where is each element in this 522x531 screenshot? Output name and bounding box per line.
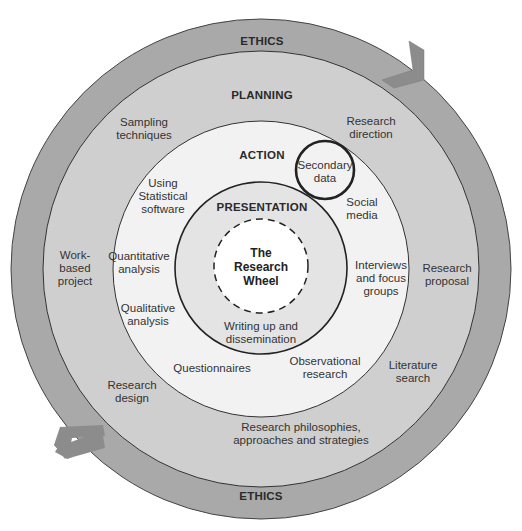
item-line: search <box>389 372 438 385</box>
planning-item-research-direction: Research direction <box>346 115 395 141</box>
ethics-heading-bottom: ETHICS <box>239 490 282 503</box>
item-line: Observational <box>290 355 361 368</box>
item-line: software <box>138 203 187 216</box>
item-line: approaches and strategies <box>233 434 369 447</box>
item-line: direction <box>346 128 395 141</box>
planning-item-research-philosophies: Research philosophies, approaches and st… <box>233 421 369 447</box>
action-item-quantitative-analysis: Quantitative analysis <box>108 250 169 276</box>
item-line: techniques <box>116 129 172 142</box>
planning-item-work-based-project: Work- based project <box>58 249 93 288</box>
item-line: based <box>58 262 93 275</box>
action-item-observational-research: Observational research <box>290 355 361 381</box>
planning-item-research-design: Research design <box>107 379 156 405</box>
item-line: Literature <box>389 359 438 372</box>
item-line: Using <box>138 177 187 190</box>
item-line: Work- <box>58 249 93 262</box>
item-line: proposal <box>422 275 471 288</box>
item-line: Interviews <box>355 259 407 272</box>
action-heading: ACTION <box>239 149 284 162</box>
action-item-qualitative-analysis: Qualitative analysis <box>121 302 175 328</box>
item-line: dissemination <box>224 333 298 346</box>
item-line: media <box>346 209 377 222</box>
item-line: Questionnaires <box>173 362 250 375</box>
item-line: analysis <box>108 263 169 276</box>
presentation-heading: PRESENTATION <box>217 201 308 214</box>
item-line: Social <box>346 196 377 209</box>
center-label-line: The <box>234 246 288 260</box>
item-line: Secondary <box>298 159 353 172</box>
center-label-line: Wheel <box>234 274 288 288</box>
ethics-heading-top: ETHICS <box>240 35 283 48</box>
item-line: Qualitative <box>121 302 175 315</box>
center-label-line: Research <box>234 260 288 274</box>
center-label: The Research Wheel <box>234 246 288 288</box>
item-line: Research <box>346 115 395 128</box>
item-line: Quantitative <box>108 250 169 263</box>
item-line: project <box>58 275 93 288</box>
action-item-statistical-software: Using Statistical software <box>138 177 187 216</box>
planning-item-research-proposal: Research proposal <box>422 262 471 288</box>
planning-heading: PLANNING <box>231 89 293 102</box>
item-line: Sampling <box>116 116 172 129</box>
action-item-questionnaires: Questionnaires <box>173 362 250 375</box>
item-line: data <box>298 172 353 185</box>
item-line: analysis <box>121 315 175 328</box>
item-line: design <box>107 392 156 405</box>
planning-item-sampling-techniques: Sampling techniques <box>116 116 172 142</box>
action-item-secondary-data: Secondary data <box>298 159 353 185</box>
item-line: Research <box>422 262 471 275</box>
item-line: Research philosophies, <box>233 421 369 434</box>
item-line: Statistical <box>138 190 187 203</box>
item-line: research <box>290 368 361 381</box>
item-line: groups <box>355 285 407 298</box>
item-line: Writing up and <box>224 320 298 333</box>
action-item-social-media: Social media <box>346 196 377 222</box>
action-item-interviews: Interviews and focus groups <box>355 259 407 298</box>
planning-item-literature-search: Literature search <box>389 359 438 385</box>
item-line: Research <box>107 379 156 392</box>
presentation-item-writing-up: Writing up and dissemination <box>224 320 298 346</box>
item-line: and focus <box>355 272 407 285</box>
